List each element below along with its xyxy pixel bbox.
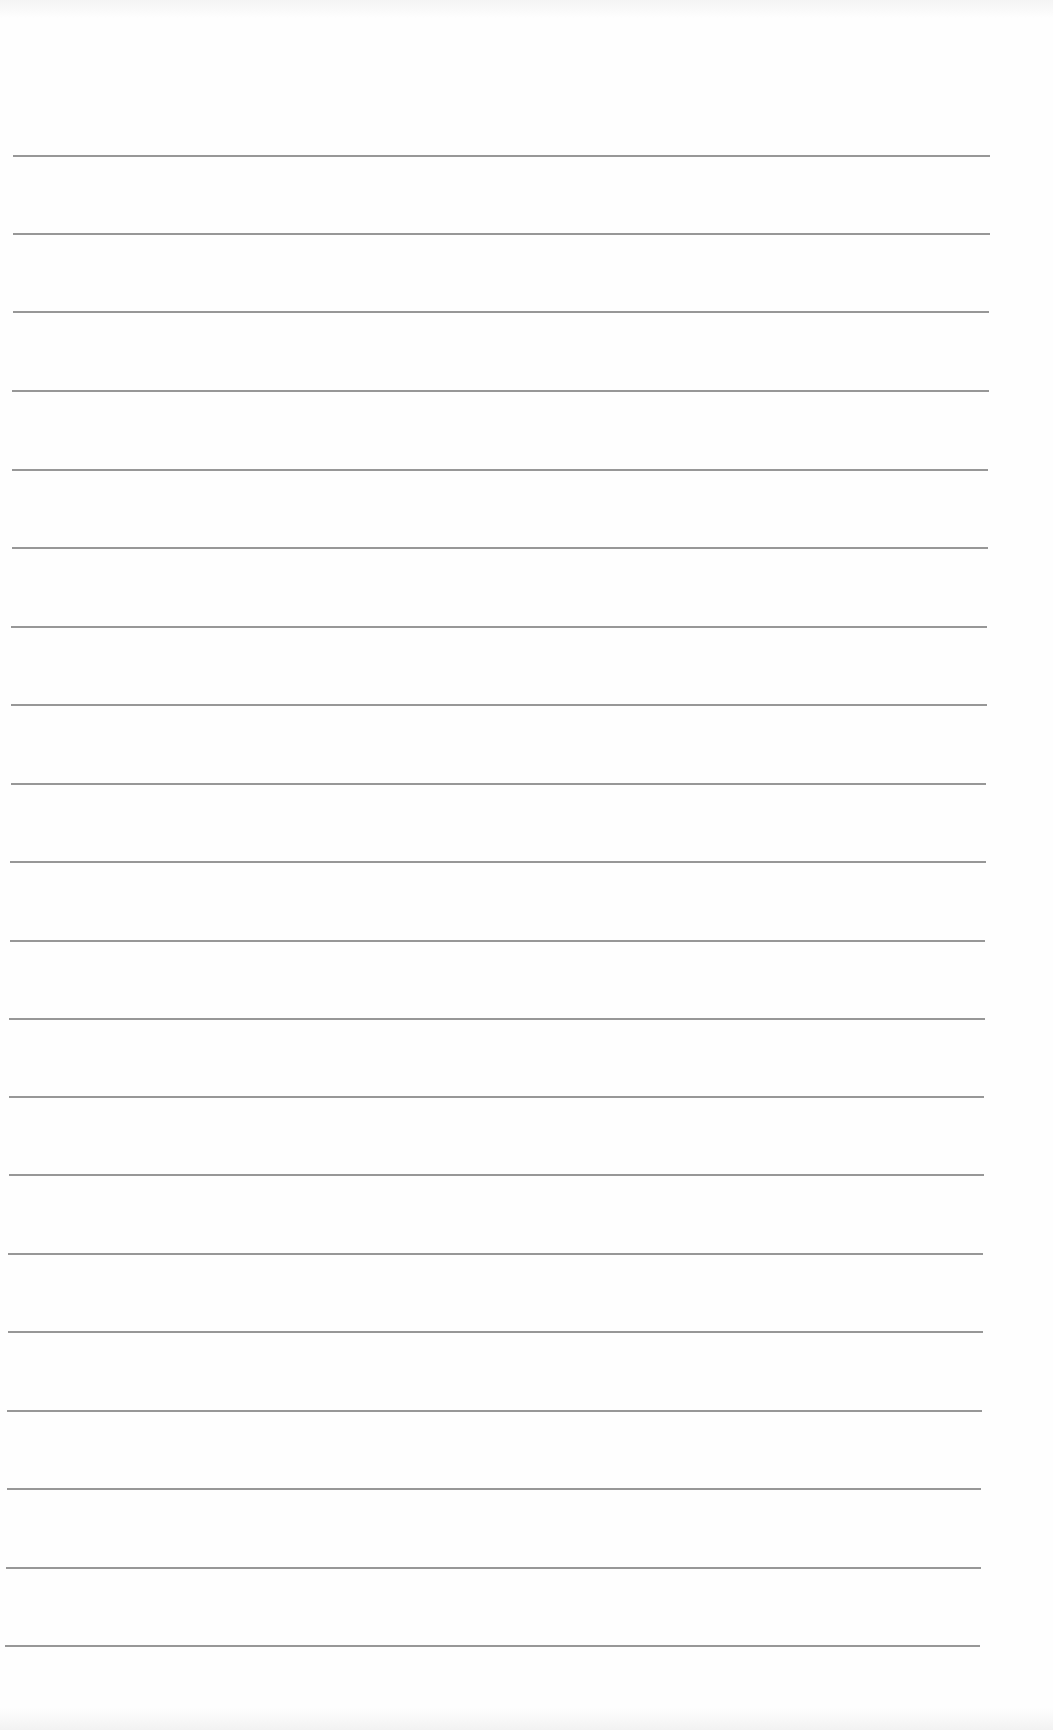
ruled-line [13, 233, 990, 235]
ruled-line [11, 626, 987, 628]
scan-top-edge [0, 0, 1053, 18]
ruled-line [8, 1331, 983, 1333]
ruled-line [7, 1410, 982, 1412]
ruled-line [11, 783, 986, 785]
lined-paper-sheet [0, 0, 1053, 1730]
ruled-line [5, 1645, 980, 1647]
ruled-line [9, 1018, 985, 1020]
ruled-line [13, 311, 989, 313]
ruled-line [6, 1567, 981, 1569]
ruled-line [12, 469, 988, 471]
ruled-line [7, 1488, 981, 1490]
ruled-line [11, 704, 987, 706]
ruled-line [12, 390, 989, 392]
ruled-line [10, 940, 985, 942]
ruled-line [8, 1253, 983, 1255]
scan-bottom-edge [0, 1708, 1053, 1730]
ruled-line [9, 1174, 984, 1176]
ruled-line [12, 547, 988, 549]
ruled-line [13, 155, 990, 157]
ruled-line [10, 861, 986, 863]
ruled-line [9, 1096, 984, 1098]
